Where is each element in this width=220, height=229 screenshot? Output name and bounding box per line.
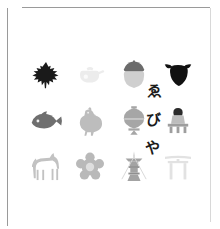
- kokeshi-doll-icon: [165, 107, 191, 135]
- grid-cell-chrysanthemum[interactable]: [68, 144, 112, 190]
- card-right-rule: [210, 8, 211, 222]
- sea-bream-fish-icon: [29, 110, 63, 132]
- icon-grid: [24, 52, 200, 192]
- grid-cell-sea-bream-fish[interactable]: [24, 98, 68, 144]
- grid-cell-horse[interactable]: [24, 144, 68, 190]
- grid-cell-kokeshi-doll[interactable]: [156, 98, 200, 144]
- lantern-stand-icon: [120, 151, 148, 183]
- grid-cell-acorn[interactable]: [112, 52, 156, 98]
- card-top-rule: [22, 7, 210, 8]
- teapot-icon: [75, 63, 105, 87]
- icon-card-frame: ゑ び や: [0, 0, 220, 229]
- maple-leaf-icon: [31, 60, 61, 90]
- horse-icon: [31, 153, 61, 181]
- grid-cell-torii-gate[interactable]: [156, 144, 200, 190]
- grid-cell-cow-head[interactable]: [156, 52, 200, 98]
- card-left-rule: [7, 8, 8, 226]
- acorn-icon: [122, 60, 146, 90]
- grid-cell-lantern-stand[interactable]: [112, 144, 156, 190]
- torii-gate-icon: [164, 154, 192, 180]
- chrysanthemum-icon: [76, 153, 104, 181]
- grid-cell-teapot[interactable]: [68, 52, 112, 98]
- grid-cell-rooster[interactable]: [68, 98, 112, 144]
- grid-cell-maple-leaf[interactable]: [24, 52, 68, 98]
- cow-head-icon: [163, 62, 193, 88]
- lantern-icon: [122, 106, 146, 136]
- grid-cell-lantern[interactable]: [112, 98, 156, 144]
- rooster-icon: [77, 106, 103, 136]
